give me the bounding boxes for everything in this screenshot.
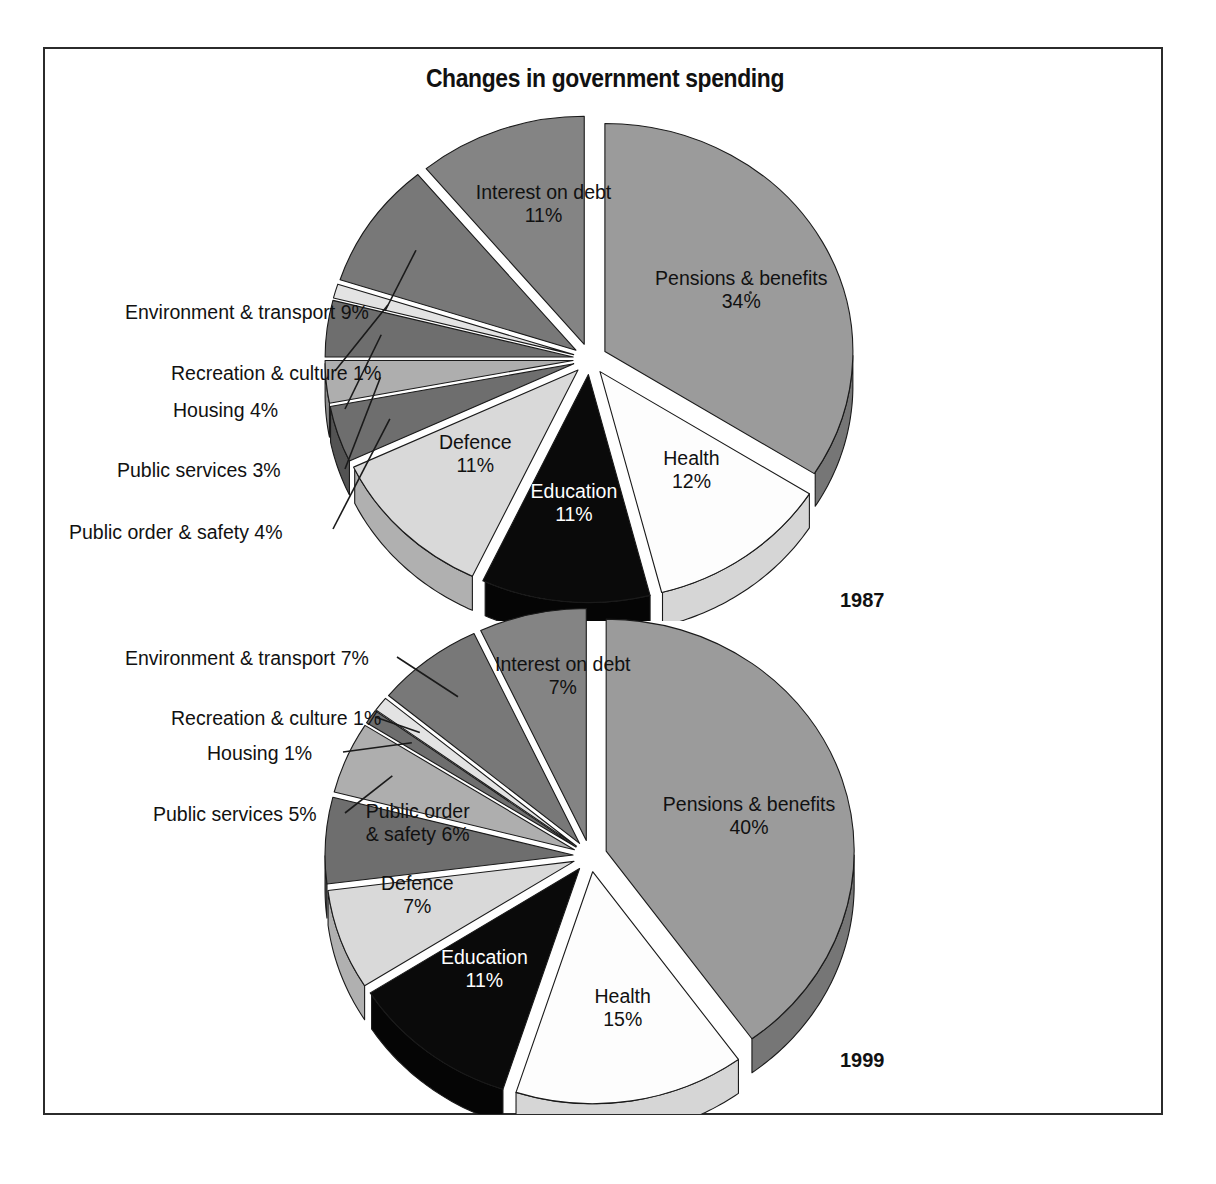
callout-public-services-1987: Public services 3% xyxy=(117,459,281,482)
chart-frame: Changes in government spending Pensions … xyxy=(43,47,1163,1115)
callout-recreation-culture-1999: Recreation & culture 1% xyxy=(171,707,381,730)
callout-recreation-culture-1987: Recreation & culture 1% xyxy=(171,362,381,385)
callout-housing-1999: Housing 1% xyxy=(207,742,312,765)
slice-label-public-order-safety: Public order& safety 6% xyxy=(366,800,471,845)
pie-chart-1987: Pensions & benefits34%Health12%Education… xyxy=(45,109,1165,621)
callout-housing-1987: Housing 4% xyxy=(173,399,278,422)
page-title: Changes in government spending xyxy=(112,63,1098,94)
year-label-1999: 1999 xyxy=(840,1049,885,1072)
callout-environment-transport-1987: Environment & transport 9% xyxy=(125,301,369,324)
stray-dot-mark xyxy=(749,291,752,294)
callout-public-services-1999: Public services 5% xyxy=(153,803,317,826)
callout-public-order-safety-1987: Public order & safety 4% xyxy=(69,521,283,544)
pie-1999-svg: Pensions & benefits40%Health15%Education… xyxy=(45,594,1165,1114)
pie-chart-1999: Pensions & benefits40%Health15%Education… xyxy=(45,594,1165,1114)
callout-environment-transport-1999: Environment & transport 7% xyxy=(125,647,369,670)
